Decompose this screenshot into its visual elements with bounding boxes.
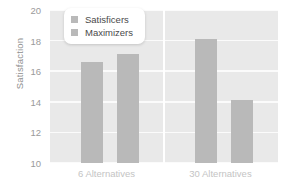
bar [117, 54, 139, 163]
bar-chart: Satisfaction 101214161820 6 Alternatives… [0, 0, 289, 193]
bar [195, 39, 217, 163]
x-axis-tick: 30 Alternatives [189, 168, 251, 179]
x-axis-tick: 6 Alternatives [78, 168, 135, 179]
y-axis-tick-labels: 101214161820 [0, 10, 46, 163]
x-axis-tick-labels: 6 Alternatives30 Alternatives [50, 168, 278, 186]
y-axis-tick: 16 [1, 66, 41, 77]
y-axis-tick: 10 [1, 158, 41, 169]
y-axis-tick: 14 [1, 96, 41, 107]
legend-item: Satisficers [71, 13, 133, 26]
bar [231, 100, 253, 163]
panel-divider [163, 10, 165, 163]
y-axis-tick: 12 [1, 127, 41, 138]
legend-label: Maximizers [85, 27, 133, 38]
legend-item: Maximizers [71, 26, 133, 39]
bar [81, 62, 103, 163]
legend-swatch-icon [71, 29, 78, 36]
y-axis-tick: 20 [1, 5, 41, 16]
chart-legend: SatisficersMaximizers [64, 8, 145, 44]
legend-label: Satisficers [85, 14, 129, 25]
y-axis-tick: 18 [1, 35, 41, 46]
legend-swatch-icon [71, 16, 78, 23]
